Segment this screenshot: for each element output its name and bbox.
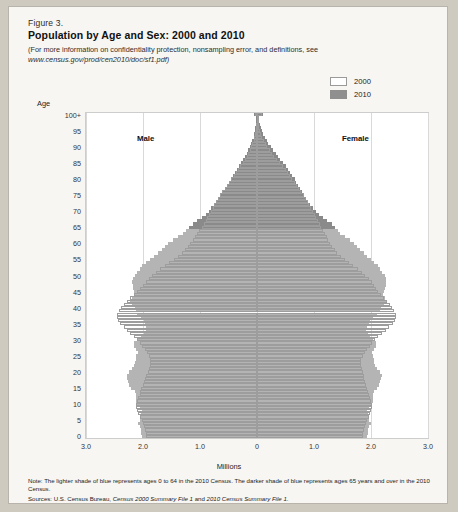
bar-left-2000-age-73 bbox=[216, 200, 257, 203]
bar-right-2000-age-80 bbox=[257, 177, 292, 180]
bar-right-2000-age-13 bbox=[257, 393, 369, 396]
x-tick-1: 2.0 bbox=[138, 442, 148, 451]
bar-right-2000-age-3 bbox=[257, 425, 365, 428]
bar-right-2000-age-64 bbox=[257, 229, 323, 232]
bar-right-2000-age-24 bbox=[257, 358, 361, 361]
bar-right-2000-age-61 bbox=[257, 238, 328, 241]
y-tick-10: 10 bbox=[35, 400, 81, 409]
bar-right-2000-age-0 bbox=[257, 435, 363, 438]
bar-right-2000-age-57 bbox=[257, 251, 337, 254]
sources-title-1: Census 2000 Summary File 1 bbox=[113, 495, 193, 502]
bar-right-2000-age-31 bbox=[257, 335, 378, 338]
bar-right-2000-age-23 bbox=[257, 361, 361, 364]
bar-left-2000-age-13 bbox=[140, 393, 257, 396]
bar-left-2000-age-68 bbox=[207, 216, 257, 219]
bar-left-2000-age-42 bbox=[127, 300, 257, 303]
x-axis-labels: 3.02.01.001.02.03.0 bbox=[85, 442, 429, 454]
bar-right-2000-age-72 bbox=[257, 203, 309, 206]
figure-number: Figure 3. bbox=[28, 18, 63, 28]
bar-right-2000-age-41 bbox=[257, 303, 390, 306]
bar-right-2000-age-77 bbox=[257, 187, 299, 190]
bar-right-2000-age-90 bbox=[257, 145, 267, 148]
bar-right-2000-age-19 bbox=[257, 374, 364, 377]
x-tick-3: 0 bbox=[255, 442, 259, 451]
bar-left-2000-age-23 bbox=[150, 361, 257, 364]
bar-left-2000-age-44 bbox=[134, 293, 257, 296]
bar-left-2000-age-60 bbox=[190, 242, 257, 245]
y-tick-0: 0 bbox=[35, 432, 81, 441]
y-tick-80: 80 bbox=[35, 174, 81, 183]
bar-left-2000-age-56 bbox=[178, 255, 257, 258]
bar-left-2000-age-30 bbox=[137, 338, 257, 341]
bar-left-2000-age-9 bbox=[136, 406, 257, 409]
bar-left-2000-age-77 bbox=[225, 187, 257, 190]
bar-right-2000-age-34 bbox=[257, 325, 389, 328]
bar-left-2000-age-49 bbox=[149, 277, 257, 280]
bar-left-2000-age-52 bbox=[160, 267, 257, 270]
bar-left-2000-age-8 bbox=[137, 409, 257, 412]
bar-right-2000-age-70 bbox=[257, 210, 313, 213]
bar-right-2000-age-8 bbox=[257, 409, 371, 412]
y-tick-55: 55 bbox=[35, 255, 81, 264]
bar-left-2000-age-81 bbox=[234, 174, 257, 177]
bar-right-2000-age-14 bbox=[257, 390, 368, 393]
bar-right-2000-age-10 bbox=[257, 403, 372, 406]
bar-left-2000-age-39 bbox=[119, 309, 257, 312]
bar-left-2000-age-27 bbox=[145, 348, 257, 351]
bar-left-2000-age-86 bbox=[245, 158, 257, 161]
bar-left-2000-age-21 bbox=[149, 367, 257, 370]
y-tick-15: 15 bbox=[35, 384, 81, 393]
bar-left-2000-age-3 bbox=[144, 425, 257, 428]
x-tick-6: 3.0 bbox=[423, 442, 433, 451]
figure-page: Figure 3. Population by Age and Sex: 200… bbox=[8, 6, 448, 504]
y-tick-75: 75 bbox=[35, 191, 81, 200]
bar-left-2000-age-64 bbox=[199, 229, 257, 232]
y-tick-45: 45 bbox=[35, 287, 81, 296]
bar-right-2000-age-4 bbox=[257, 422, 366, 425]
bar-right-2000-age-86 bbox=[257, 158, 277, 161]
bar-right-2000-age-85 bbox=[257, 161, 280, 164]
bar-right-2000-age-55 bbox=[257, 258, 345, 261]
bar-left-2000-age-36 bbox=[118, 319, 257, 322]
bar-left-2000-age-25 bbox=[149, 354, 257, 357]
bar-left-2000-age-62 bbox=[195, 235, 257, 238]
legend-item-2010: 2010 bbox=[330, 89, 371, 100]
bar-right-2000-age-21 bbox=[257, 367, 362, 370]
bar-right-2000-age-58 bbox=[257, 248, 335, 251]
y-tick-5: 5 bbox=[35, 416, 81, 425]
bar-right-2000-age-26 bbox=[257, 351, 365, 354]
page-title: Population by Age and Sex: 2000 and 2010 bbox=[28, 29, 245, 41]
y-tick-95: 95 bbox=[35, 126, 81, 135]
sources-title-2: 2010 Census Summary File 1 bbox=[207, 495, 287, 502]
bar-right-2000-age-75 bbox=[257, 193, 304, 196]
figure-source-url: www.census.gov/prod/cen2010/doc/sf1.pdf) bbox=[28, 55, 169, 64]
bar-left-2000-age-10 bbox=[136, 403, 257, 406]
bar-right-2000-age-45 bbox=[257, 290, 378, 293]
bar-left-2000-age-84 bbox=[240, 164, 257, 167]
bar-left-2000-age-75 bbox=[220, 193, 257, 196]
figure-sources: Sources: U.S. Census Bureau, Census 2000… bbox=[28, 495, 432, 503]
bar-right-2000-age-27 bbox=[257, 348, 367, 351]
y-tick-90: 90 bbox=[35, 142, 81, 151]
bar-right-2000-age-82 bbox=[257, 171, 288, 174]
y-tick-65: 65 bbox=[35, 223, 81, 232]
bar-right-2000-age-91 bbox=[257, 142, 266, 145]
y-tick-35: 35 bbox=[35, 319, 81, 328]
bar-right-2000-age-30 bbox=[257, 338, 375, 341]
bar-right-2000-age-42 bbox=[257, 300, 387, 303]
bar-right-2000-age-81 bbox=[257, 174, 290, 177]
bar-left-2000-age-83 bbox=[238, 168, 257, 171]
bar-right-2000-age-65 bbox=[257, 226, 321, 229]
bar-right-2000-age-44 bbox=[257, 293, 381, 296]
legend-label-2000: 2000 bbox=[354, 77, 371, 86]
bar-right-2000-age-100 bbox=[257, 113, 262, 116]
bar-right-2000-age-40 bbox=[257, 306, 392, 309]
bar-right-2000-age-12 bbox=[257, 396, 370, 399]
y-tick-60: 60 bbox=[35, 239, 81, 248]
y-tick-40: 40 bbox=[35, 303, 81, 312]
male-side-label: Male bbox=[137, 134, 154, 143]
bar-left-2000-age-82 bbox=[236, 171, 257, 174]
bar-right-2000-age-50 bbox=[257, 274, 365, 277]
bar-left-2000-age-38 bbox=[117, 313, 257, 316]
bar-left-2000-age-12 bbox=[138, 396, 257, 399]
